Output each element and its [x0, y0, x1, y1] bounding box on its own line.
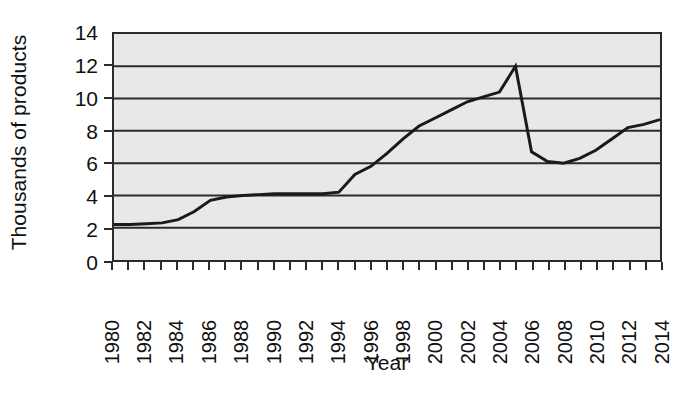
x-tick-mark	[240, 262, 242, 270]
x-tick-mark	[111, 262, 113, 270]
y-tick-mark	[104, 228, 113, 230]
x-tick-label: 2010	[584, 272, 610, 352]
plot-area	[112, 32, 662, 262]
y-tick-mark	[104, 195, 113, 197]
x-tick-label: 1992	[293, 272, 319, 352]
x-tick-label: 1984	[164, 272, 190, 352]
x-tick-mark	[548, 262, 550, 270]
y-axis-label: Thousands of products	[0, 0, 38, 285]
x-tick-mark	[370, 262, 372, 270]
data-series-line	[114, 66, 660, 224]
x-tick-label: 1990	[261, 272, 287, 352]
x-tick-label: 1996	[358, 272, 384, 352]
x-tick-label: 1986	[196, 272, 222, 352]
x-tick-mark	[532, 262, 534, 270]
x-tick-mark	[564, 262, 566, 270]
x-axis-label: Year	[112, 352, 662, 373]
x-tick-mark	[305, 262, 307, 270]
x-tick-mark	[596, 262, 598, 270]
x-tick-mark	[418, 262, 420, 270]
x-tick-mark	[451, 262, 453, 270]
x-tick-mark	[143, 262, 145, 270]
x-tick-label: 1998	[390, 272, 416, 352]
plot-svg	[114, 34, 660, 260]
x-tick-mark	[499, 262, 501, 270]
x-tick-mark	[224, 262, 226, 270]
x-tick-label: 2004	[487, 272, 513, 352]
x-tick-label: 1994	[325, 272, 351, 352]
x-tick-mark	[661, 262, 663, 270]
y-tick-label: 12	[75, 54, 98, 75]
x-tick-mark	[402, 262, 404, 270]
x-tick-mark	[467, 262, 469, 270]
x-tick-label: 2006	[520, 272, 546, 352]
x-tick-label: 2014	[649, 272, 675, 352]
x-tick-mark	[321, 262, 323, 270]
y-tick-mark	[104, 130, 113, 132]
y-tick-label: 6	[86, 153, 98, 174]
x-tick-label: 2012	[617, 272, 643, 352]
line-chart: Thousands of products 02468101214 198019…	[0, 0, 691, 396]
x-tick-mark	[515, 262, 517, 270]
y-tick-label: 2	[86, 219, 98, 240]
x-tick-label: 2008	[552, 272, 578, 352]
x-tick-mark	[192, 262, 194, 270]
x-tick-label: 2002	[455, 272, 481, 352]
x-tick-mark	[176, 262, 178, 270]
x-tick-mark	[612, 262, 614, 270]
x-tick-mark	[273, 262, 275, 270]
x-tick-label: 2000	[423, 272, 449, 352]
y-tick-label: 10	[75, 87, 98, 108]
y-tick-label: 4	[86, 186, 98, 207]
x-tick-mark	[386, 262, 388, 270]
y-tick-mark	[104, 162, 113, 164]
x-tick-mark	[127, 262, 129, 270]
x-tick-mark	[208, 262, 210, 270]
x-tick-mark	[435, 262, 437, 270]
x-tick-label: 1988	[228, 272, 254, 352]
y-tick-mark	[104, 97, 113, 99]
y-axis-tick-labels: 02468101214	[38, 0, 106, 285]
x-tick-mark	[289, 262, 291, 270]
x-tick-mark	[629, 262, 631, 270]
y-tick-label: 8	[86, 120, 98, 141]
gridlines	[114, 66, 660, 227]
x-axis-tick-labels: 1980198219841986198819901992199419961998…	[112, 268, 662, 352]
y-axis-label-text: Thousands of products	[9, 35, 30, 251]
y-tick-mark	[104, 64, 113, 66]
x-tick-mark	[580, 262, 582, 270]
x-tick-mark	[483, 262, 485, 270]
x-tick-mark	[257, 262, 259, 270]
x-tick-mark	[645, 262, 647, 270]
x-tick-mark	[337, 262, 339, 270]
y-tick-label: 14	[75, 22, 98, 43]
x-tick-label: 1982	[131, 272, 157, 352]
x-tick-label: 1980	[99, 272, 125, 352]
y-tick-label: 0	[86, 252, 98, 273]
x-tick-mark	[160, 262, 162, 270]
x-tick-mark	[354, 262, 356, 270]
